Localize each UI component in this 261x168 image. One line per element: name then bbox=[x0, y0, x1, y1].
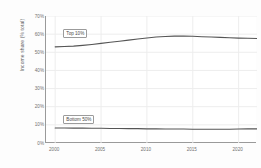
x-tick-label: 2005 bbox=[85, 147, 115, 152]
chart-figure: Income share (% total) 70%60%50%40%30%20… bbox=[0, 0, 261, 168]
series-annotation: Bottom 50% bbox=[63, 115, 94, 124]
x-tick-label: 2020 bbox=[223, 147, 253, 152]
series-line bbox=[55, 128, 257, 129]
x-tick-label: 2000 bbox=[39, 147, 69, 152]
x-tick-label: 2015 bbox=[177, 147, 207, 152]
series-annotation: Top 10% bbox=[63, 29, 87, 38]
x-tick-label: 2010 bbox=[131, 147, 161, 152]
